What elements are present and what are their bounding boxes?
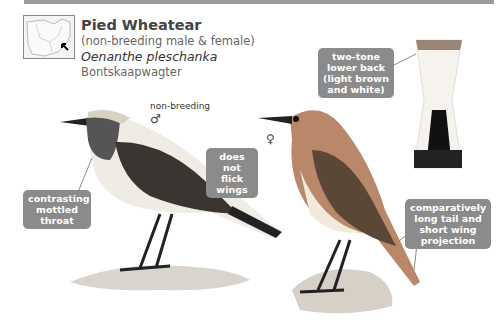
rock-male-icon	[70, 265, 250, 290]
male-symbol-icon: ♂	[150, 112, 161, 126]
callout-wings: does not flick wings	[206, 148, 258, 198]
male-plumage-label: non-breeding	[150, 101, 210, 111]
leader-line-throat	[78, 158, 92, 192]
callout-back: two-tone lower back (light brown and whi…	[318, 48, 394, 98]
callout-tail: comparatively long tail and short wing p…	[405, 199, 491, 249]
tail-detail-icon	[414, 40, 462, 168]
female-bird-icon	[258, 110, 420, 292]
callout-throat: contrasting mottled throat	[23, 190, 91, 229]
leader-line-back	[392, 54, 416, 66]
female-symbol-icon: ♀	[266, 132, 275, 146]
